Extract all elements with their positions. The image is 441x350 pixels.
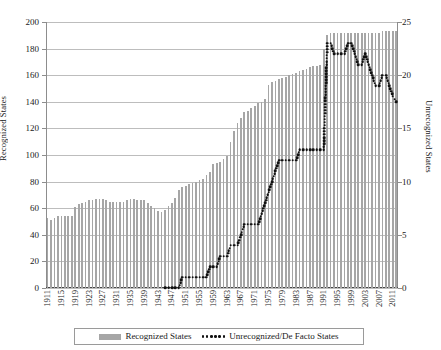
x-tick-label: 1979 <box>278 290 287 307</box>
x-tick-label: 1943 <box>154 290 163 307</box>
data-point <box>357 63 360 66</box>
data-point <box>324 88 327 91</box>
data-point <box>319 148 322 151</box>
left-tick-mark <box>42 75 46 76</box>
data-point <box>242 226 245 229</box>
data-point <box>267 191 270 194</box>
left-tick-mark <box>42 128 46 129</box>
data-point <box>323 124 326 127</box>
data-point <box>291 159 294 162</box>
data-point <box>216 263 219 266</box>
data-point <box>309 148 312 151</box>
data-point <box>171 287 174 290</box>
x-tick-label: 2007 <box>375 290 384 307</box>
data-point <box>326 48 329 51</box>
bar-swatch-icon <box>99 334 121 340</box>
data-point <box>247 223 250 226</box>
data-point <box>181 276 184 279</box>
x-tick-label: 1959 <box>209 290 218 307</box>
left-tick-label: 140 <box>26 98 40 107</box>
data-point <box>323 130 326 133</box>
right-tick-mark <box>398 288 402 289</box>
x-tick-label: 1983 <box>292 290 301 307</box>
data-point <box>227 252 230 255</box>
data-point <box>325 78 328 81</box>
data-point <box>228 247 231 250</box>
data-point <box>269 186 272 189</box>
data-point <box>323 139 326 142</box>
data-point <box>179 281 182 284</box>
plot-area <box>46 22 398 288</box>
data-point <box>271 180 274 183</box>
data-point <box>258 220 261 223</box>
legend: Recognized States Unrecognized/De Facto … <box>74 328 364 345</box>
x-tick-label: 1935 <box>126 290 135 307</box>
data-point <box>236 244 239 247</box>
x-tick-label: 1971 <box>250 290 259 307</box>
data-point <box>325 63 328 66</box>
data-point <box>266 194 269 197</box>
x-tick-label: 1927 <box>98 290 107 307</box>
left-tick-mark <box>42 288 46 289</box>
data-point <box>325 72 328 75</box>
data-point <box>380 77 383 80</box>
data-point <box>202 276 205 279</box>
data-point <box>257 223 260 226</box>
data-point <box>167 287 170 290</box>
data-point <box>374 85 377 88</box>
data-point <box>268 188 271 191</box>
data-point <box>324 100 327 103</box>
data-point <box>285 159 288 162</box>
x-tick-label: 1967 <box>236 290 245 307</box>
data-point <box>178 284 181 287</box>
gridline <box>46 288 398 289</box>
data-point <box>361 61 364 64</box>
data-point <box>297 151 300 154</box>
data-point <box>174 287 177 290</box>
data-point <box>198 276 201 279</box>
right-tick-label: 15 <box>402 124 411 133</box>
data-point <box>324 112 327 115</box>
data-point <box>276 164 279 167</box>
left-tick-label: 0 <box>35 284 40 293</box>
data-point <box>395 101 398 104</box>
x-tick-label: 1931 <box>112 290 121 307</box>
right-axis-title: Unrecognized States <box>424 100 434 173</box>
x-tick-label: 1995 <box>333 290 342 307</box>
data-point <box>212 265 215 268</box>
legend-label-recognized: Recognized States <box>125 332 191 341</box>
x-tick-label: 1951 <box>181 290 190 307</box>
data-point <box>281 159 284 162</box>
right-tick-mark <box>398 75 402 76</box>
data-point <box>323 145 326 148</box>
data-point <box>217 260 220 263</box>
right-tick-mark <box>398 128 402 129</box>
data-point <box>347 42 350 45</box>
data-point <box>263 204 266 207</box>
left-tick-label: 60 <box>30 204 39 213</box>
dotted-line-icon <box>202 335 226 338</box>
data-point <box>228 249 231 252</box>
data-point <box>295 159 298 162</box>
data-point <box>233 244 236 247</box>
data-point <box>326 51 329 54</box>
left-tick-label: 180 <box>26 45 40 54</box>
data-point <box>323 142 326 145</box>
data-point <box>324 106 327 109</box>
right-tick-label: 0 <box>402 284 407 293</box>
data-point <box>324 94 327 97</box>
left-tick-label: 200 <box>26 18 40 27</box>
data-point <box>325 60 328 63</box>
data-point <box>239 236 242 239</box>
data-point <box>237 241 240 244</box>
left-tick-label: 20 <box>30 257 39 266</box>
left-tick-mark <box>42 49 46 50</box>
data-point <box>259 218 262 221</box>
x-tick-label: 2011 <box>388 290 397 307</box>
data-point <box>178 287 181 290</box>
data-point <box>325 75 328 78</box>
x-tick-label: 1963 <box>223 290 232 307</box>
data-point <box>379 79 382 82</box>
left-tick-mark <box>42 208 46 209</box>
x-tick-label: 1955 <box>195 290 204 307</box>
